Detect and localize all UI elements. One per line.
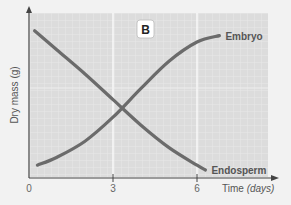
y-axis-arrow-icon — [26, 6, 32, 13]
series-label-endosperm: Endosperm — [211, 165, 266, 176]
x-tick-label: 6 — [194, 183, 200, 194]
line-chart: EmbryoEndosperm B Dry mass (g) 036 Time … — [0, 0, 291, 205]
x-axis-label: Time (days) — [222, 183, 274, 194]
x-axis-arrow-icon — [271, 175, 279, 181]
panel-badge: B — [137, 20, 154, 38]
y-axis-label: Dry mass (g) — [9, 66, 20, 123]
panel-label: B — [141, 23, 150, 37]
series-label-embryo: Embryo — [225, 31, 262, 42]
y-axis: Dry mass (g) — [9, 6, 32, 178]
x-tick-label: 3 — [110, 183, 116, 194]
x-tick-label: 0 — [26, 183, 32, 194]
